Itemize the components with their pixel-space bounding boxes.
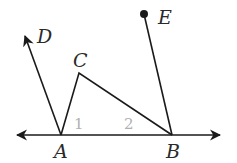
label-e: E (157, 6, 172, 28)
angle-2-label: 2 (124, 115, 134, 133)
angle-1-label: 1 (74, 115, 84, 133)
geometry-diagram: D C E A B 1 2 (0, 0, 237, 163)
ray-ad (25, 36, 61, 135)
label-d: D (36, 25, 52, 47)
label-c: C (73, 49, 88, 71)
label-b: B (165, 140, 180, 162)
segment-be (144, 14, 172, 135)
point-e-dot (140, 10, 148, 18)
label-a: A (52, 140, 68, 162)
